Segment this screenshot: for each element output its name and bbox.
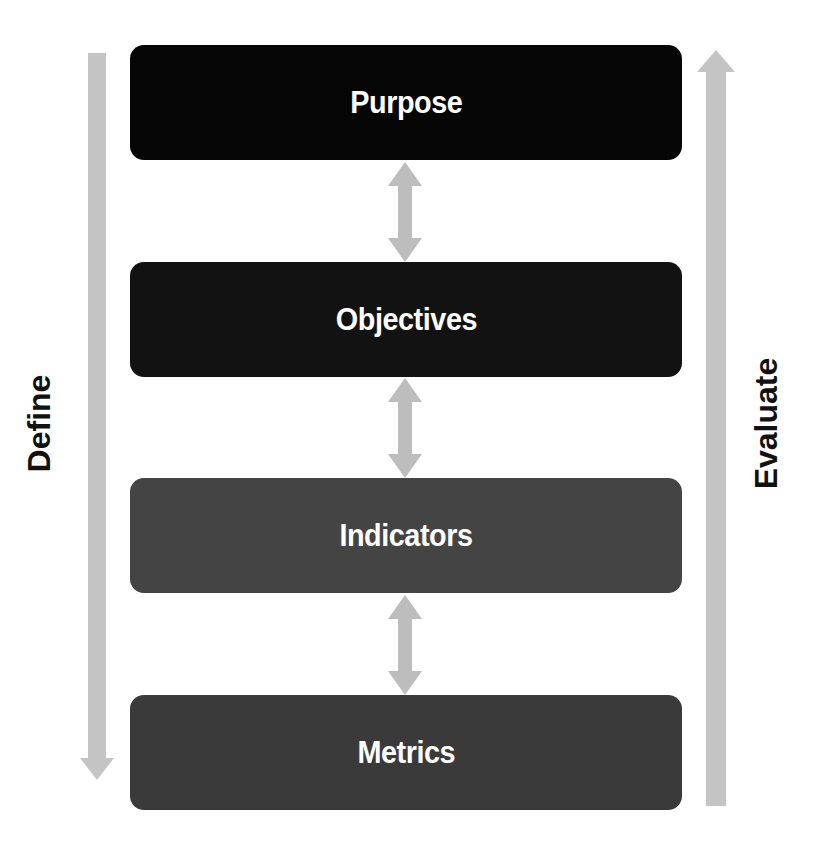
indicators-label: Indicators — [339, 517, 472, 554]
indicators-box: Indicators — [130, 478, 682, 593]
objectives-box: Objectives — [130, 262, 682, 377]
define-label: Define — [21, 369, 58, 479]
metrics-label: Metrics — [357, 734, 455, 771]
double-arrow-icon — [388, 595, 422, 695]
purpose-label: Purpose — [350, 84, 462, 121]
evaluate-arrow-icon — [697, 50, 735, 806]
double-arrow-icon — [388, 378, 422, 478]
objectives-label: Objectives — [335, 301, 476, 338]
define-arrow-icon — [80, 53, 114, 780]
double-arrow-icon — [388, 162, 422, 262]
metrics-box: Metrics — [130, 695, 682, 810]
purpose-box: Purpose — [130, 45, 682, 160]
evaluate-label: Evaluate — [748, 354, 785, 494]
